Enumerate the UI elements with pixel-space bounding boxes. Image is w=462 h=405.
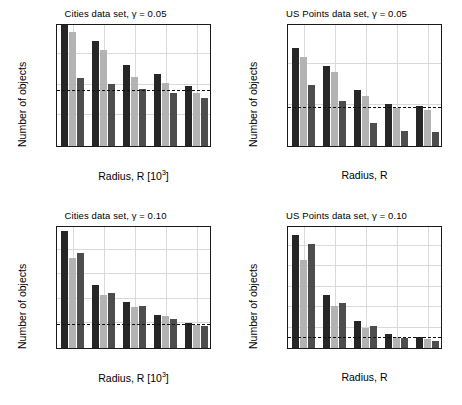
chart-panel-cities-gamma-010: Cities data set, γ = 0.10 Number of obje… xyxy=(0,202,231,405)
bar xyxy=(331,306,338,348)
threshold-line xyxy=(288,337,441,338)
bar xyxy=(308,244,315,348)
bar xyxy=(154,74,161,146)
x-axis-tick-mark xyxy=(335,348,336,349)
y-axis-tick-mark xyxy=(287,63,288,64)
bar xyxy=(424,110,431,146)
y-axis-tick-mark xyxy=(56,347,57,348)
y-axis-tick-mark xyxy=(287,104,288,105)
x-axis-tick-mark xyxy=(135,348,136,349)
bar-group xyxy=(319,25,350,146)
bar xyxy=(170,93,177,147)
bar-group xyxy=(319,227,350,348)
bar-group xyxy=(381,227,412,348)
x-axis-tick-mark xyxy=(197,348,198,349)
bar xyxy=(401,338,408,348)
bar xyxy=(416,337,423,348)
bar xyxy=(300,57,307,146)
y-axis-label: Number of objects xyxy=(16,264,28,349)
bar xyxy=(393,337,400,348)
bar xyxy=(162,316,169,348)
bar xyxy=(339,303,346,349)
y-axis-label: Number of objects xyxy=(247,264,259,349)
bar xyxy=(100,50,107,146)
chart-title: US Points data set, γ = 0.05 xyxy=(231,8,462,19)
x-axis-tick-mark xyxy=(428,146,429,147)
x-axis-tick-mark xyxy=(104,146,105,147)
y-axis-tick-mark xyxy=(56,298,57,299)
bar-group xyxy=(119,227,150,348)
y-axis-tick-mark xyxy=(287,285,288,286)
x-axis-tick-mark xyxy=(135,146,136,147)
bar xyxy=(354,321,361,348)
figure-grid: Cities data set, γ = 0.05 Number of obje… xyxy=(0,0,462,405)
bar xyxy=(370,123,377,146)
x-axis-label: Radius, R xyxy=(287,371,442,383)
x-axis-tick-mark xyxy=(366,348,367,349)
y-axis-label: Number of objects xyxy=(16,62,28,147)
bar-group xyxy=(412,25,442,146)
x-axis-tick-mark xyxy=(335,146,336,147)
bar xyxy=(131,307,138,348)
bar-group xyxy=(181,227,211,348)
plot-area: 02040608010020.022.525.027.530.0 xyxy=(56,226,211,349)
bar-group xyxy=(288,25,319,146)
bar xyxy=(323,295,330,348)
bar-group xyxy=(88,25,119,146)
bar-group xyxy=(119,25,150,146)
bar xyxy=(331,72,338,146)
bar xyxy=(162,83,169,146)
x-axis-tick-mark xyxy=(166,348,167,349)
y-axis-tick-mark xyxy=(287,145,288,146)
x-axis-tick-mark xyxy=(197,146,198,147)
bar xyxy=(300,260,307,348)
y-axis-tick-mark xyxy=(56,273,57,274)
bar xyxy=(131,77,138,146)
x-axis-tick-mark xyxy=(304,146,305,147)
bar-group xyxy=(88,227,119,348)
bar xyxy=(385,334,392,348)
bar xyxy=(193,93,200,147)
bar xyxy=(385,104,392,146)
x-axis-tick-mark xyxy=(428,348,429,349)
y-axis-label: Number of objects xyxy=(247,62,259,147)
chart-title: US Points data set, γ = 0.10 xyxy=(231,210,462,221)
bar-group xyxy=(150,227,181,348)
y-axis-tick-mark xyxy=(287,326,288,327)
bar xyxy=(100,295,107,349)
y-axis-tick-mark xyxy=(56,322,57,323)
y-axis-tick-mark xyxy=(287,306,288,307)
bar xyxy=(393,108,400,146)
chart-panel-uspoints-gamma-010: US Points data set, γ = 0.10 Number of o… xyxy=(231,202,462,405)
bar xyxy=(362,96,369,146)
bar xyxy=(354,90,361,146)
bar xyxy=(323,66,330,146)
y-axis-tick-mark xyxy=(287,265,288,266)
bar-group xyxy=(350,227,381,348)
bar xyxy=(139,306,146,348)
bar xyxy=(123,65,130,146)
chart-panel-cities-gamma-005: Cities data set, γ = 0.05 Number of obje… xyxy=(0,0,231,203)
x-axis-tick-mark xyxy=(73,146,74,147)
x-axis-label: Radius, R [103] xyxy=(56,169,211,182)
bar xyxy=(92,285,99,348)
plot-area: 0501001500.751.001.251.501.75 xyxy=(287,24,442,147)
bar xyxy=(108,84,115,146)
bar-group xyxy=(150,25,181,146)
bar xyxy=(61,231,68,348)
bar xyxy=(139,89,146,146)
bar xyxy=(292,235,299,348)
plot-area: 01020304020.022.525.027.530.0 xyxy=(56,24,211,147)
bar xyxy=(77,78,84,146)
bar-group xyxy=(57,227,88,348)
bar xyxy=(201,98,208,146)
bar xyxy=(154,315,161,348)
threshold-line xyxy=(57,324,210,325)
bar xyxy=(77,253,84,348)
x-axis-label: Radius, R [103] xyxy=(56,371,211,384)
x-axis-tick-mark xyxy=(366,146,367,147)
bar-group xyxy=(381,25,412,146)
bar xyxy=(416,106,423,146)
x-axis-tick-mark xyxy=(397,348,398,349)
x-axis-label: Radius, R xyxy=(287,169,442,181)
